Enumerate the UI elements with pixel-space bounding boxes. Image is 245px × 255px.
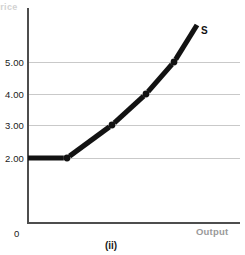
data-point-marker bbox=[109, 122, 116, 129]
supply-curve-figure: Price 5.00 4.00 3.00 2.00 0 Output S (ii… bbox=[0, 0, 245, 255]
figure-caption: (ii) bbox=[0, 240, 222, 251]
series-label-s: S bbox=[201, 25, 208, 36]
curve-segment bbox=[70, 127, 110, 156]
curve-segment bbox=[176, 25, 197, 59]
curve-segment bbox=[148, 64, 172, 91]
data-point-marker bbox=[143, 91, 150, 98]
curve-segment bbox=[114, 96, 143, 123]
data-point-marker bbox=[171, 59, 178, 66]
data-point-marker bbox=[64, 155, 71, 162]
supply-curve-plot bbox=[0, 0, 245, 255]
